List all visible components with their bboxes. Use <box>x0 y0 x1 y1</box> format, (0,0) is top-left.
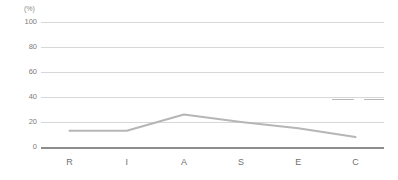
data-series-layer <box>0 0 398 180</box>
series-line-path <box>70 115 356 138</box>
gridline-artifact-left <box>332 99 354 100</box>
line-chart: (%) 100806040200 RIASEC <box>0 0 398 180</box>
gridline-artifact-right <box>364 99 384 100</box>
